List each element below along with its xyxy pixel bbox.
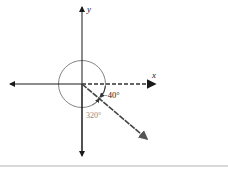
- positive-angle-arc-icon: [92, 99, 99, 105]
- positive-angle-label: 320°: [86, 111, 101, 120]
- negative-angle-label: −40°: [103, 90, 120, 100]
- x-axis-label: x: [151, 70, 156, 80]
- y-axis-label: y: [86, 4, 91, 14]
- angle-diagram: y x −40° 320°: [0, 0, 228, 171]
